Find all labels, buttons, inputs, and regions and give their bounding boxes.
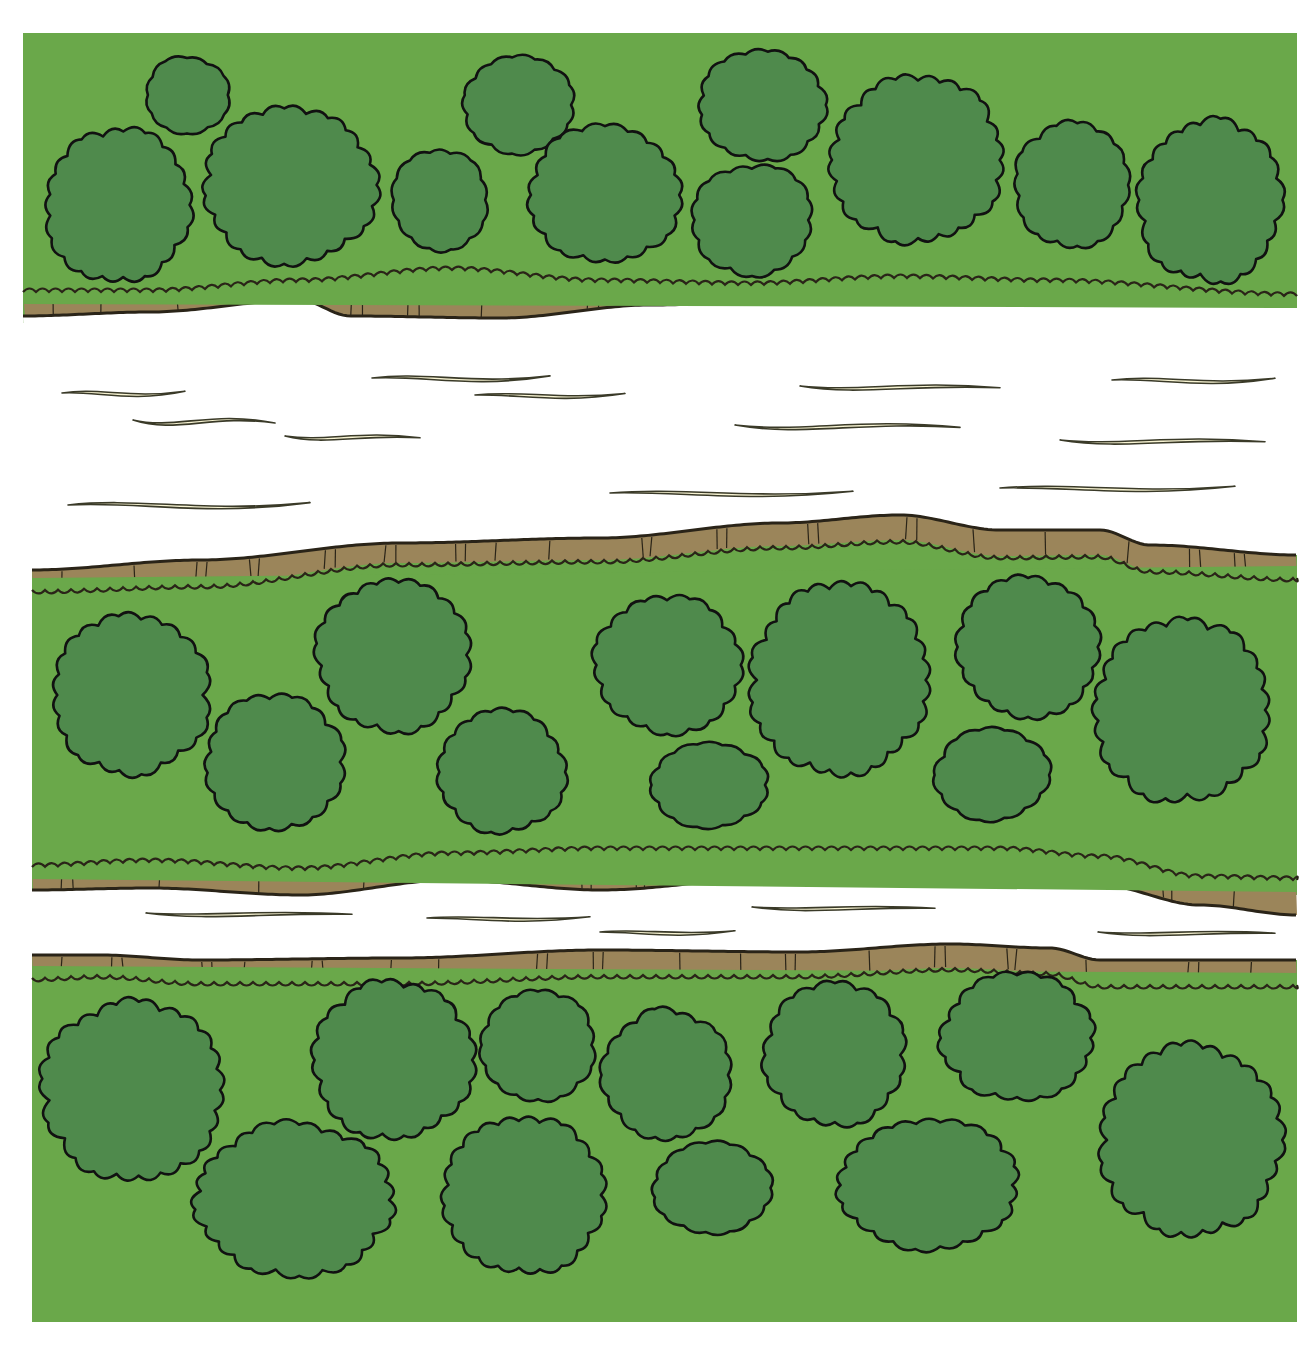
tree-canopy-icon xyxy=(45,127,193,282)
tree-canopy-icon xyxy=(204,694,345,831)
tree-canopy-icon xyxy=(39,997,224,1181)
river-illustration xyxy=(0,0,1316,1347)
tree-canopy-icon xyxy=(761,981,906,1128)
tree-canopy-icon xyxy=(1092,617,1270,803)
tree-canopy-icon xyxy=(1014,120,1130,248)
tree-canopy-icon xyxy=(441,1117,607,1274)
river-channel-north xyxy=(23,294,1297,570)
tree-canopy-icon xyxy=(146,56,229,134)
